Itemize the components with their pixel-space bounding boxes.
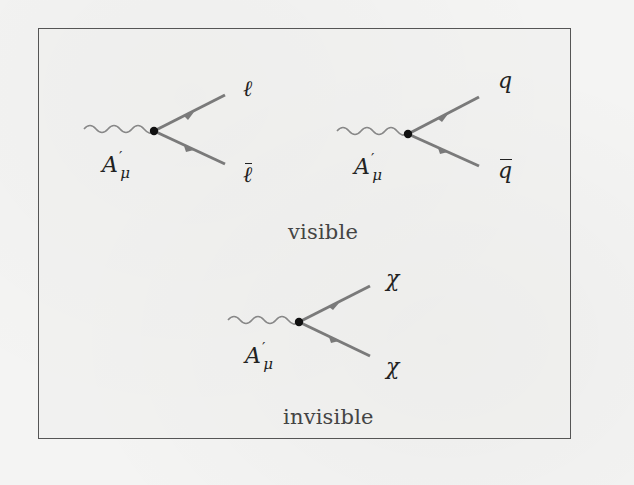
photon-wavy-line [337,128,406,136]
fermion-line-down [299,322,370,356]
outgoing-label-chi: χ [386,268,399,290]
fermion-line-up [154,95,225,131]
photon-wavy-line [84,126,153,134]
vertex-dot [150,127,158,135]
incoming-label-dark-photon: A′μ [102,150,130,181]
outgoing-label-quark: q [498,70,512,92]
fermion-line-up [299,286,370,322]
vertex-dot [404,130,412,138]
outgoing-label-antilepton: ℓ [243,164,252,186]
photon-wavy-line [228,317,298,325]
fermion-line-down [408,134,479,166]
outgoing-label-chi: χ [386,356,399,378]
caption-invisible: invisible [283,405,374,429]
caption-visible: visible [288,220,358,244]
vertex-dot [295,318,303,326]
fermion-line-down [154,131,225,164]
fermion-line-up [408,97,479,134]
incoming-label-dark-photon: A′μ [245,341,273,372]
outgoing-label-lepton: ℓ [243,78,252,100]
outgoing-label-antiquark: q [498,160,512,182]
incoming-label-dark-photon: A′μ [354,152,382,183]
